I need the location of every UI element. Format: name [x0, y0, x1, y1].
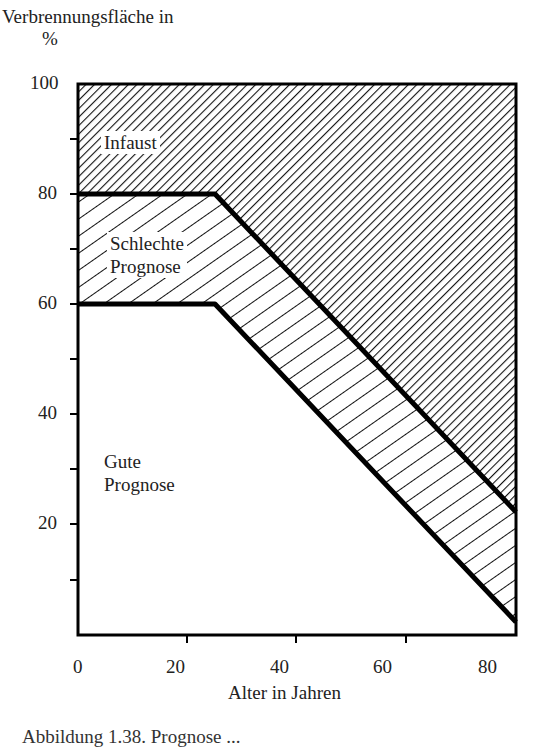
region-label-gute-prognose: Gute Prognose — [104, 450, 175, 496]
y-tick-label: 80 — [38, 182, 57, 204]
region-label-line: Prognose — [110, 255, 184, 278]
x-tick-label: 60 — [373, 656, 392, 678]
x-axis-title: Alter in Jahren — [228, 682, 341, 704]
region-label-line: Gute — [104, 450, 175, 473]
region-label-line: Prognose — [104, 473, 175, 496]
y-tick-label: 40 — [38, 402, 57, 424]
x-tick-label: 20 — [166, 656, 185, 678]
x-tick-label: 40 — [270, 656, 289, 678]
figure-caption: Abbildung 1.38. Prognose ... — [22, 726, 241, 748]
region-label-line: Schlechte — [110, 232, 184, 255]
region-label-schlechte-prognose: Schlechte Prognose — [107, 232, 187, 278]
y-tick-label: 60 — [38, 292, 57, 314]
x-tick-label: 80 — [478, 656, 497, 678]
y-tick-label: 20 — [38, 512, 57, 534]
y-tick-label: 100 — [30, 72, 59, 94]
x-tick-label: 0 — [73, 656, 83, 678]
region-label-infaust: Infaust — [101, 131, 160, 154]
